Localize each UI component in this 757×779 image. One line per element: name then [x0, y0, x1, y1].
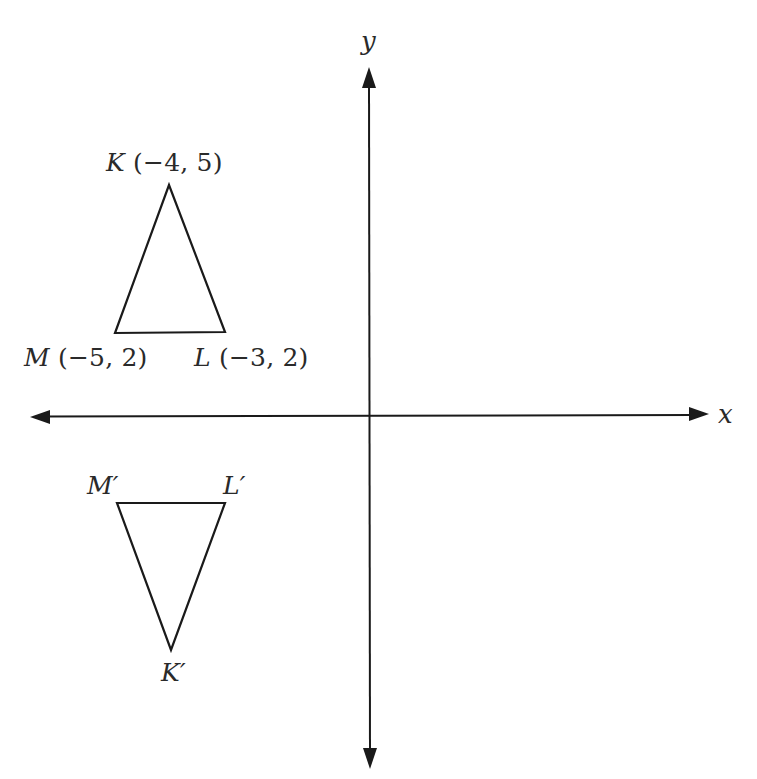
vertex-label-k-prime: K′: [161, 660, 186, 685]
x-axis-right-arrow-icon: [689, 407, 709, 421]
vertex-name: K′: [161, 658, 186, 687]
triangle-klm: [115, 185, 225, 333]
coordinate-plane: [0, 0, 757, 779]
vertex-coords: (−5, 2): [58, 343, 148, 372]
y-axis-up-arrow-icon: [362, 67, 376, 88]
vertex-label-l-prime: L′: [223, 473, 246, 498]
x-axis-label: x: [718, 401, 733, 427]
vertex-name: M: [24, 343, 50, 372]
x-axis-left-arrow-icon: [30, 410, 50, 424]
vertex-label-m-prime: M′: [87, 473, 119, 498]
vertex-name: L′: [223, 471, 246, 500]
vertex-coords: (−4, 5): [133, 148, 223, 177]
vertex-coords: (−3, 2): [219, 343, 309, 372]
triangle-k-prime-l-prime-m-prime: [117, 503, 225, 650]
y-axis-label: y: [361, 28, 376, 54]
vertex-label-l: L (−3, 2): [194, 345, 309, 370]
vertex-label-m: M (−5, 2): [24, 345, 148, 370]
y-axis-down-arrow-icon: [363, 748, 377, 769]
y-axis: [362, 67, 377, 769]
vertex-name: K: [106, 148, 125, 177]
vertex-name: M′: [87, 471, 119, 500]
vertex-name: L: [194, 343, 211, 372]
vertex-label-k: K (−4, 5): [106, 150, 223, 175]
